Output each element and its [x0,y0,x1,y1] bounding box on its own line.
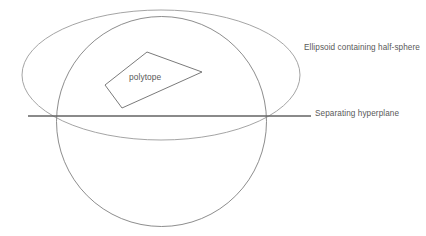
diagram-canvas: Ellipsoid containing half-sphere Separat… [0,0,426,236]
sphere-circle-shape [57,17,267,227]
ellipsoid-label: Ellipsoid containing half-sphere [304,42,422,53]
separating-hyperplane-label: Separating hyperplane [315,108,426,119]
polytope-label: polytope [129,72,161,83]
